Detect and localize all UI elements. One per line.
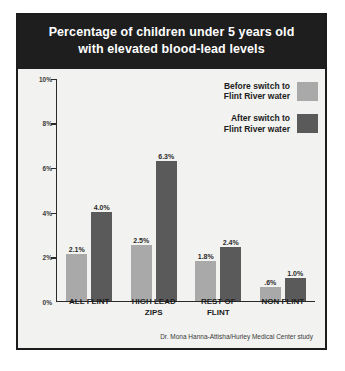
bar-value-label: 2.4%	[223, 239, 239, 246]
bar[interactable]	[131, 245, 152, 300]
bars-area: 2.1%4.0%2.5%6.3%1.8%2.4%.6%1.0%	[57, 79, 315, 301]
bar-column[interactable]: 6.3%	[156, 79, 177, 301]
bar-value-label: 1.8%	[198, 253, 214, 260]
x-axis-label: HIGH LEAD ZIPS	[122, 297, 187, 318]
source-attribution: Dr. Mona Hanna-Attisha/Hurley Medical Ce…	[160, 333, 313, 340]
bar-column[interactable]: 2.5%	[131, 79, 152, 301]
bar-value-label: 2.5%	[133, 237, 149, 244]
y-tick-mark	[51, 123, 57, 124]
y-tick-mark	[51, 213, 57, 214]
bar-column[interactable]: 2.1%	[66, 79, 87, 301]
bar-value-label: .6%	[264, 279, 276, 286]
bar-group: .6%1.0%	[251, 79, 316, 301]
y-tick-mark	[51, 257, 57, 258]
bar[interactable]	[195, 261, 216, 301]
bar-value-label: 4.0%	[94, 204, 110, 211]
bar-value-label: 6.3%	[158, 153, 174, 160]
chart-title: Percentage of children under 5 years old…	[18, 15, 325, 69]
plot-area: 0%2%4%6%8%10% 2.1%4.0%2.5%6.3%1.8%2.4%.6…	[32, 79, 315, 302]
bar-column[interactable]: 1.8%	[195, 79, 216, 301]
chart-title-line-1: Percentage of children under 5 years old	[32, 24, 311, 41]
y-tick-label: 0%	[43, 299, 52, 306]
bar-value-label: 2.1%	[69, 246, 85, 253]
bar[interactable]	[66, 254, 87, 301]
infographic-panel: Percentage of children under 5 years old…	[16, 13, 327, 350]
bar-value-label: 1.0%	[287, 270, 303, 277]
y-tick-mark	[51, 168, 57, 169]
bar-column[interactable]: 1.0%	[285, 79, 306, 301]
bar-group: 2.1%4.0%	[57, 79, 122, 301]
bar-column[interactable]: .6%	[260, 79, 281, 301]
bar[interactable]	[220, 247, 241, 300]
x-axis-labels: ALL FLINTHIGH LEAD ZIPSREST OF FLINTNON …	[57, 297, 315, 318]
x-axis-label: REST OF FLINT	[186, 297, 251, 318]
y-axis: 0%2%4%6%8%10%	[32, 79, 52, 302]
bar[interactable]	[156, 161, 177, 301]
bar-column[interactable]: 2.4%	[220, 79, 241, 301]
bar-column[interactable]: 4.0%	[91, 79, 112, 301]
bar[interactable]	[91, 212, 112, 301]
bar-group: 2.5%6.3%	[122, 79, 187, 301]
bar-group: 1.8%2.4%	[186, 79, 251, 301]
x-axis-label: NON FLINT	[251, 297, 316, 318]
chart-title-line-2: with elevated blood-lead levels	[32, 41, 311, 58]
y-tick-mark	[51, 79, 57, 80]
chart-body: Before switch to Flint River water After…	[18, 69, 325, 348]
x-axis-label: ALL FLINT	[57, 297, 122, 318]
